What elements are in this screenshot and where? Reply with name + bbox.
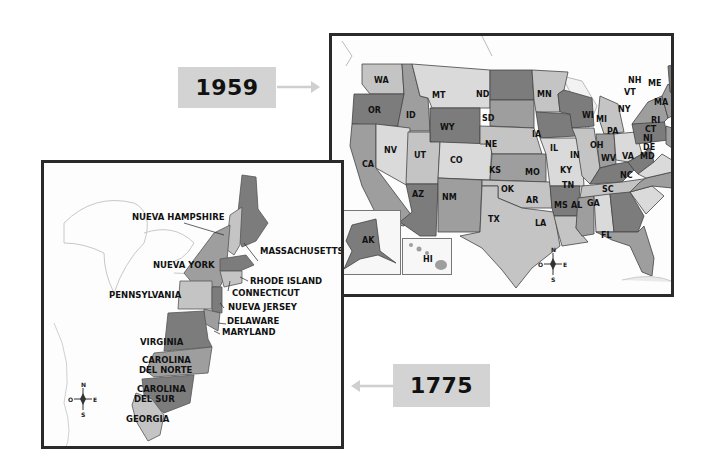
state-label-md: MD — [640, 153, 655, 161]
state-label-mn: MN — [537, 91, 552, 99]
state-label-co: CO — [450, 157, 463, 165]
year-label-1775: 1775 — [393, 364, 490, 407]
state-label-id: ID — [406, 112, 416, 120]
state-label-sc: SC — [602, 186, 614, 194]
state-label-ca: CA — [362, 161, 374, 169]
state-label-ar: AR — [526, 197, 538, 205]
compass-rose-icon: N S O E — [68, 381, 98, 417]
state-label-la: LA — [535, 220, 546, 228]
colonies-map-1775: NUEVA HAMPSHIRE MASSACHUSETTS NUEVA YORK… — [41, 160, 344, 449]
state-label-nc: NC — [620, 172, 633, 180]
state-label-ct: CT — [645, 126, 656, 134]
year-label-1959: 1959 — [178, 67, 276, 108]
state-label-al: AL — [571, 202, 582, 210]
state-label-ky: KY — [560, 167, 572, 175]
state-label-ne: NE — [485, 141, 497, 149]
state-label-ia: IA — [532, 131, 541, 139]
colony-label-carolina-del-norte-1: CAROLINA — [142, 356, 191, 365]
us-map-1959: AK HI WA OR CA ID NV MT WY UT AZ CO NM N… — [329, 33, 674, 297]
state-label-ms: MS — [554, 202, 568, 210]
state-label-ma: MA — [654, 99, 668, 107]
hawaii-inset: HI — [402, 238, 452, 275]
state-label-ny: NY — [618, 106, 631, 114]
state-label-va: VA — [622, 153, 634, 161]
state-label-fl: FL — [601, 232, 612, 240]
colony-label-carolina-del-norte-2: DEL NORTE — [139, 366, 192, 375]
state-label-ut: UT — [414, 152, 426, 160]
state-label-ri: RI — [651, 117, 660, 125]
year-1959-text: 1959 — [195, 75, 258, 100]
year-1775-text: 1775 — [410, 373, 473, 398]
state-label-wi: WI — [582, 112, 594, 120]
colony-label-georgia: GEORGIA — [126, 415, 169, 424]
state-label-nv: NV — [384, 147, 397, 155]
state-label-oh: OH — [590, 142, 604, 150]
state-label-wa: WA — [374, 77, 389, 85]
state-label-or: OR — [368, 107, 381, 115]
state-label-wy: WY — [440, 124, 455, 132]
state-label-ga: GA — [587, 200, 600, 208]
state-label-tn: TN — [562, 182, 574, 190]
colony-label-carolina-del-sur-1: CAROLINA — [137, 385, 186, 394]
state-label-wv: WV — [601, 155, 616, 163]
colony-label-nueva-jersey: NUEVA JERSEY — [228, 303, 297, 312]
state-label-mo: MO — [525, 169, 540, 177]
state-label-ok: OK — [501, 186, 514, 194]
colony-label-massachusetts: MASSACHUSETTS — [260, 247, 344, 256]
state-label-in: IN — [570, 152, 580, 160]
state-label-az: AZ — [412, 191, 424, 199]
state-label-nh: NH — [628, 77, 641, 85]
state-label-me: ME — [648, 80, 661, 88]
state-label-vt: VT — [624, 89, 636, 97]
arrow-left-icon — [351, 379, 395, 393]
state-label-nm: NM — [442, 194, 457, 202]
colony-label-delaware: DELAWARE — [227, 317, 279, 326]
colony-label-carolina-del-sur-2: DEL SUR — [134, 395, 175, 404]
alaska-inset: AK — [337, 210, 401, 275]
state-label-sd: SD — [482, 115, 494, 123]
colony-label-connecticut: CONNECTICUT — [232, 289, 300, 298]
state-label-nj: NJ — [643, 135, 653, 143]
colony-label-nueva-hampshire: NUEVA HAMPSHIRE — [132, 213, 225, 222]
colony-label-virginia: VIRGINIA — [140, 338, 183, 347]
arrow-right-icon — [277, 80, 321, 94]
state-label-ks: KS — [489, 167, 501, 175]
state-label-hi: HI — [423, 256, 433, 264]
state-label-nd: ND — [476, 91, 489, 99]
colony-label-maryland: MARYLAND — [222, 328, 275, 337]
state-label-ak: AK — [362, 237, 374, 245]
colony-label-rhode-island: RHODE ISLAND — [250, 277, 322, 286]
state-label-mt: MT — [432, 92, 445, 100]
state-label-pa: PA — [607, 128, 618, 136]
state-label-il: IL — [550, 145, 558, 153]
state-label-mi: MI — [596, 116, 607, 124]
compass-rose-icon: N S O E — [538, 246, 568, 282]
colony-label-pennsylvania: PENNSYLVANIA — [109, 291, 181, 300]
colony-label-nueva-york: NUEVA YORK — [153, 261, 215, 270]
state-label-de: DE — [643, 144, 655, 152]
state-label-tx: TX — [488, 216, 500, 224]
